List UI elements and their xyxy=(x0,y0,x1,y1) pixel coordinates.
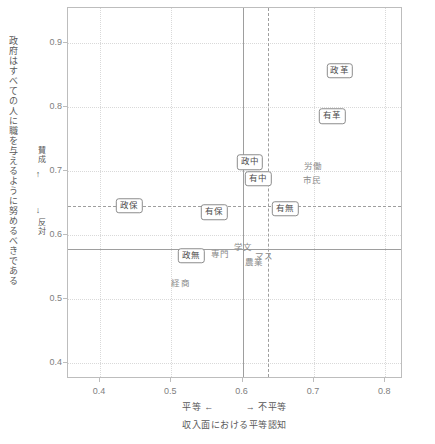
data-point-label: 市民 xyxy=(303,176,321,185)
data-point-label: 政無 xyxy=(178,248,204,264)
y-axis-tick-label: 0.8 xyxy=(49,101,62,111)
y-axis-tick-labels: 0.40.50.60.70.80.9 xyxy=(28,7,62,378)
x-axis-tick-label: 0.6 xyxy=(235,386,248,396)
gridline-vertical xyxy=(100,8,101,377)
y-axis-tick-label: 0.6 xyxy=(49,229,62,239)
gridline-horizontal xyxy=(68,363,401,364)
x-axis-tick-label: 0.4 xyxy=(93,386,106,396)
x-axis-direction-right-label: 不平等 xyxy=(258,400,287,413)
gridline-horizontal xyxy=(68,235,401,236)
y-axis-tick-mark xyxy=(63,234,67,235)
y-axis-tick-mark xyxy=(63,42,67,43)
data-point-label: 専門 xyxy=(211,250,229,259)
gridline-horizontal xyxy=(68,43,401,44)
y-axis-tick-mark xyxy=(63,106,67,107)
data-point-label: 学文 xyxy=(234,243,252,252)
data-point-label: 政中 xyxy=(237,154,263,170)
x-axis-tick-label: 0.5 xyxy=(164,386,177,396)
gridline-horizontal xyxy=(68,107,401,108)
data-point-label: 有中 xyxy=(245,171,271,187)
y-axis-tick-label: 0.4 xyxy=(49,357,62,367)
gridline-vertical xyxy=(171,8,172,377)
reference-line-x-ref-dashed xyxy=(268,8,269,377)
x-axis-tick-mark xyxy=(170,378,171,382)
x-axis-tick-mark xyxy=(384,378,385,382)
y-axis-tick-label: 0.5 xyxy=(49,293,62,303)
y-axis-tick-label: 0.9 xyxy=(49,37,62,47)
y-axis-tick-mark xyxy=(63,170,67,171)
x-axis-tick-mark xyxy=(313,378,314,382)
scatter-plot-figure: 政府はすべての人に職を与えるように努めるべきである 賛成 ↑ ↓ 反対 0.40… xyxy=(0,0,435,444)
data-point-label: 有無 xyxy=(272,201,298,217)
data-point-label: 労働 xyxy=(304,162,322,171)
x-axis-tick-mark xyxy=(99,378,100,382)
data-point-label: 政革 xyxy=(326,63,352,79)
y-axis-tick-mark xyxy=(63,298,67,299)
x-axis-direction-left-label: 平等 xyxy=(182,400,201,413)
x-axis-tick-label: 0.7 xyxy=(307,386,320,396)
plot-area: 政保政革有革政中有中有保有無政無労働市民専門学文マス農業経商 xyxy=(67,7,402,378)
x-axis-title: 収入面における平等認知 xyxy=(67,418,402,431)
x-axis-tick-label: 0.8 xyxy=(378,386,391,396)
data-point-label: 農業 xyxy=(245,258,263,267)
left-arrow-icon: ← xyxy=(204,402,214,412)
data-point-label: 経商 xyxy=(171,279,189,288)
data-point-label: 有保 xyxy=(201,204,227,220)
right-arrow-icon: → xyxy=(246,402,256,412)
y-axis-tick-mark xyxy=(63,362,67,363)
x-axis-direction-annotation: 平等 ← → 不平等 xyxy=(67,400,402,414)
data-point-label: 政保 xyxy=(116,198,142,214)
y-axis-title: 政府はすべての人に職を与えるように努めるべきである xyxy=(4,36,20,286)
gridline-horizontal xyxy=(68,171,401,172)
x-axis-tick-mark xyxy=(242,378,243,382)
gridline-vertical xyxy=(385,8,386,377)
y-axis-tick-label: 0.7 xyxy=(49,165,62,175)
data-point-label: 有革 xyxy=(319,108,345,124)
gridline-vertical xyxy=(314,8,315,377)
reference-line-x-mean-solid xyxy=(243,8,244,377)
gridline-horizontal xyxy=(68,299,401,300)
x-axis-tick-labels: 0.40.50.60.70.8 xyxy=(67,386,402,400)
